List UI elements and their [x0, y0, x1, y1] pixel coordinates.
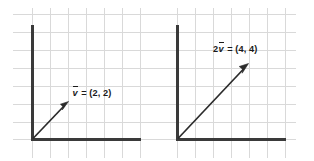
vector-2v-label-prefix: 2	[213, 44, 218, 54]
vector-2v-shaft	[178, 68, 245, 139]
vector-2v-label-symbol: v	[219, 44, 225, 54]
grid-horizontal-lines	[13, 15, 296, 140]
vector-v-label-suffix: = (2, 2)	[79, 88, 112, 98]
vector-v-label: v = (2, 2)	[73, 87, 112, 98]
vector-2v-label: 2 v = (4, 4)	[213, 43, 257, 54]
figure-canvas: v = (2, 2) 2 v = (4, 4)	[0, 0, 314, 161]
vector-2v-label-suffix: = (4, 4)	[225, 44, 258, 54]
vector-v-label-symbol: v	[73, 88, 79, 98]
vector-figure: v = (2, 2) 2 v = (4, 4)	[0, 0, 314, 161]
grid-vertical-lines	[33, 8, 286, 158]
